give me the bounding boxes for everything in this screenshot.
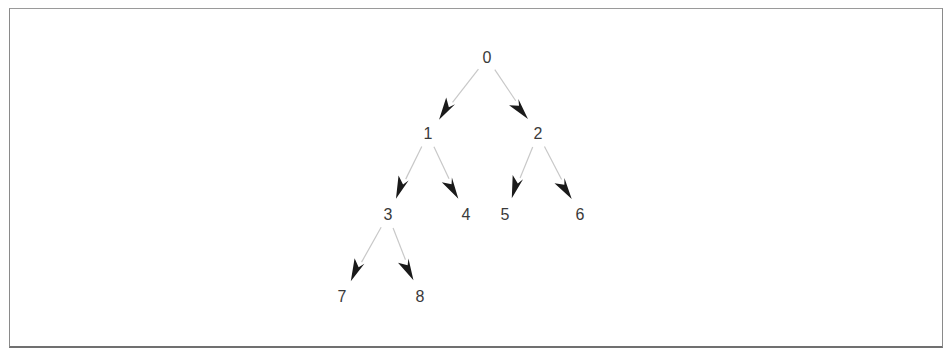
tree-node-3: 3 xyxy=(384,207,393,223)
arrowhead-icon xyxy=(439,97,455,119)
arrowhead-icon xyxy=(554,178,571,199)
edge-1-4 xyxy=(434,147,449,179)
tree-node-0: 0 xyxy=(483,50,492,66)
arrowhead-icon xyxy=(398,259,413,281)
edge-3-8 xyxy=(393,228,405,260)
tree-node-4: 4 xyxy=(462,207,471,223)
tree-edges xyxy=(0,0,949,361)
tree-node-7: 7 xyxy=(338,289,347,305)
arrowhead-icon xyxy=(509,99,528,119)
tree-node-5: 5 xyxy=(501,207,510,223)
edge-1-3 xyxy=(406,147,422,180)
arrowhead-icon xyxy=(396,176,409,199)
edge-0-2 xyxy=(495,70,516,101)
edge-2-6 xyxy=(544,146,561,179)
tree-node-2: 2 xyxy=(534,126,543,142)
arrowhead-icon xyxy=(442,177,459,198)
tree-node-8: 8 xyxy=(416,289,425,305)
edge-3-7 xyxy=(362,227,382,262)
edge-2-5 xyxy=(520,147,533,178)
tree-node-1: 1 xyxy=(424,126,433,142)
edge-0-1 xyxy=(453,69,479,102)
tree-node-6: 6 xyxy=(576,207,585,223)
arrowhead-icon xyxy=(512,175,523,198)
